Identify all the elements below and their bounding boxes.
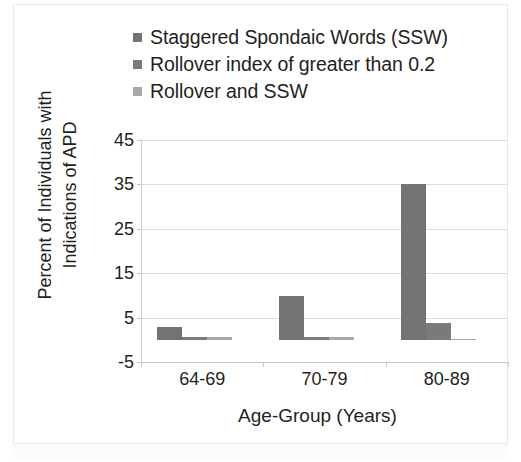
bar-70-79-series1 bbox=[279, 296, 304, 340]
bar-70-79-series2 bbox=[304, 337, 329, 340]
x-axis-line bbox=[141, 362, 509, 363]
legend-label-ssw: Staggered Spondaic Words (SSW) bbox=[150, 26, 448, 49]
bar-64-69-series2 bbox=[182, 337, 207, 340]
y-axis-title-line1: Percent of Individuals with bbox=[33, 65, 58, 325]
x-tick-mark bbox=[386, 362, 387, 367]
y-tick-mark bbox=[137, 229, 141, 230]
y-tick-label: 25 bbox=[88, 218, 134, 239]
figure-bottom-shade bbox=[13, 444, 508, 458]
legend-label-rollover-and-ssw: Rollover and SSW bbox=[150, 80, 308, 103]
bar-80-89-series2 bbox=[426, 323, 451, 340]
legend-item-rollover-and-ssw: Rollover and SSW bbox=[133, 78, 513, 105]
x-category-label-80-89: 80-89 bbox=[424, 369, 470, 390]
y-tick-mark bbox=[137, 318, 141, 319]
legend-swatch-rollover-and-ssw bbox=[133, 87, 142, 96]
x-category-label-70-79: 70-79 bbox=[301, 369, 347, 390]
legend-swatch-rollover-index bbox=[133, 60, 142, 69]
bar-64-69-series1 bbox=[157, 327, 182, 340]
y-tick-label: 5 bbox=[88, 307, 134, 328]
y-tick-label: -5 bbox=[88, 352, 134, 373]
x-category-label-64-69: 64-69 bbox=[179, 369, 225, 390]
y-tick-mark bbox=[137, 184, 141, 185]
bar-80-89-series1 bbox=[401, 184, 426, 340]
y-tick-label: 15 bbox=[88, 263, 134, 284]
bar-70-79-series3 bbox=[329, 337, 354, 340]
chart-legend: Staggered Spondaic Words (SSW) Rollover … bbox=[133, 24, 513, 105]
x-tick-mark bbox=[263, 362, 264, 367]
chart-figure: Staggered Spondaic Words (SSW) Rollover … bbox=[0, 0, 521, 462]
legend-item-rollover-index: Rollover index of greater than 0.2 bbox=[133, 51, 513, 78]
x-axis-title: Age-Group (Years) bbox=[125, 405, 510, 427]
y-axis-title: Percent of Individuals with Indications … bbox=[33, 65, 83, 325]
bar-80-89-series3 bbox=[451, 339, 476, 340]
y-tick-mark bbox=[137, 273, 141, 274]
y-axis-title-line2: Indications of APD bbox=[58, 65, 83, 325]
y-tick-label: 45 bbox=[88, 130, 134, 151]
legend-item-ssw: Staggered Spondaic Words (SSW) bbox=[133, 24, 513, 51]
bar-64-69-series3 bbox=[207, 337, 232, 340]
y-tick-mark bbox=[137, 140, 141, 141]
y-tick-label: 35 bbox=[88, 174, 134, 195]
legend-label-rollover-index: Rollover index of greater than 0.2 bbox=[150, 53, 435, 76]
y-axis-ticks: -5515253545 bbox=[88, 140, 134, 362]
x-tick-mark bbox=[141, 362, 142, 367]
bars-layer bbox=[141, 140, 508, 362]
legend-swatch-ssw bbox=[133, 33, 142, 42]
x-tick-mark bbox=[508, 362, 509, 367]
